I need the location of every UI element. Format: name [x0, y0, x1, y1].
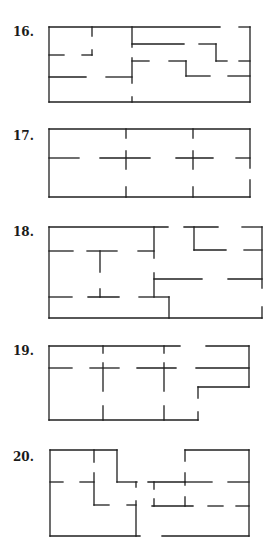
floor-plan-19	[49, 346, 249, 420]
floor-plan-18	[49, 227, 262, 318]
floor-plan-17	[49, 129, 250, 197]
floor-plan-16	[49, 27, 250, 102]
floor-plan-diagrams	[0, 0, 277, 553]
floor-plan-20	[50, 450, 249, 536]
